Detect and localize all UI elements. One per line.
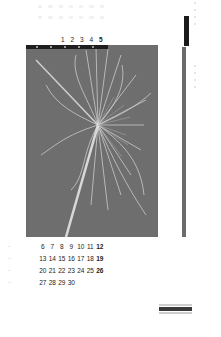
day: 21 — [48, 267, 58, 274]
day: 4 — [87, 36, 97, 43]
day: 24 — [76, 267, 86, 274]
day: 1 — [58, 36, 68, 43]
calendar-grid: – 6 7 8 9 10 11 12 – 13 14 15 16 17 18 1… — [8, 240, 105, 288]
first-week-days: 1 2 3 4 5 — [58, 36, 106, 43]
week-row: – 20 21 22 23 24 25 26 — [8, 264, 105, 276]
day: 30 — [67, 279, 77, 286]
day: 28 — [48, 279, 58, 286]
sidebar-dots-mid — [194, 65, 196, 93]
day: 20 — [38, 267, 48, 274]
sidebar-dots-top — [194, 2, 196, 30]
week-row: – 13 14 15 16 17 18 19 — [8, 252, 105, 264]
week-marker: – — [8, 267, 38, 273]
day: 3 — [77, 36, 87, 43]
day: 16 — [67, 255, 77, 262]
faint-header-row-2 — [38, 16, 104, 19]
week-row: – 6 7 8 9 10 11 12 — [8, 240, 105, 252]
day: 11 — [86, 243, 96, 250]
palm-frond-image — [26, 45, 158, 237]
day: 12 — [95, 243, 105, 250]
week-row: – 27 28 29 30 — [8, 276, 105, 288]
day: 19 — [95, 255, 105, 262]
day: 27 — [38, 279, 48, 286]
sidebar-gray-bar — [182, 47, 186, 237]
day: 5 — [96, 36, 106, 43]
day: 2 — [68, 36, 78, 43]
week-marker: – — [8, 279, 38, 285]
day: 8 — [57, 243, 67, 250]
calendar-photo — [26, 45, 158, 237]
week-marker: – — [8, 243, 38, 249]
day: 26 — [95, 267, 105, 274]
day: 18 — [86, 255, 96, 262]
day: 9 — [67, 243, 77, 250]
day: 13 — [38, 255, 48, 262]
day: 14 — [48, 255, 58, 262]
day: 10 — [76, 243, 86, 250]
day: 17 — [76, 255, 86, 262]
week-marker: – — [8, 255, 38, 261]
day: 22 — [57, 267, 67, 274]
faint-header-row-1 — [38, 5, 104, 8]
day: 6 — [38, 243, 48, 250]
publisher-logo — [159, 304, 192, 315]
day: 7 — [48, 243, 58, 250]
day: 29 — [57, 279, 67, 286]
day: 23 — [67, 267, 77, 274]
photo-top-strip — [26, 45, 108, 49]
day: 15 — [57, 255, 67, 262]
sidebar-dark-tab — [184, 16, 189, 46]
day: 25 — [86, 267, 96, 274]
